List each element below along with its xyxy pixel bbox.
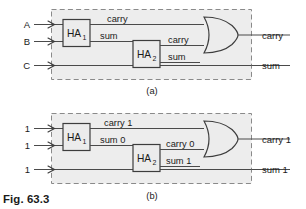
panel-a-half-adder-2-label: HA: [137, 49, 151, 60]
panel-a-output-sum-label: sum: [262, 60, 280, 71]
panel-b-output-carry-label: carry 1: [262, 134, 291, 145]
panel-b: 1 1 1 HA 1 HA 2 carry 1 sum 0 carry 0 su…: [25, 114, 291, 202]
panel-a-half-adder-1-label: HA: [67, 28, 81, 39]
panel-a-caption: (a): [146, 86, 157, 96]
figure-canvas: A B C HA 1 HA 2 carry sum carry sum carr…: [0, 0, 306, 209]
panel-a: A B C HA 1 HA 2 carry sum carry sum carr…: [23, 10, 290, 97]
panel-b-caption: (b): [146, 191, 157, 201]
panel-b-half-adder-2-subscript: 2: [153, 159, 157, 166]
panel-a-half-adder-2-subscript: 2: [153, 55, 157, 62]
panel-b-output-sum-label: sum 1: [262, 164, 288, 175]
panel-a-input-c-label: C: [23, 60, 30, 71]
panel-b-ha1-sum-label: sum 0: [100, 135, 125, 145]
panel-a-ha2-sum-label: sum: [168, 52, 186, 62]
panel-a-input-b-label: B: [24, 36, 30, 47]
panel-b-half-adder-1-subscript: 1: [83, 138, 87, 145]
panel-b-input-a-label: 1: [25, 123, 30, 134]
panel-a-ha1-sum-label: sum: [100, 31, 118, 41]
panel-a-half-adder-1-subscript: 1: [83, 34, 87, 41]
panel-a-ha2-carry-label: carry: [168, 35, 189, 45]
panel-a-ha1-carry-label: carry: [107, 14, 128, 24]
panel-b-ha2-carry-label: carry 0: [166, 139, 194, 149]
figure-root: A B C HA 1 HA 2 carry sum carry sum carr…: [0, 0, 306, 209]
panel-a-output-carry-label: carry: [262, 30, 283, 41]
panel-b-ha1-carry-label: carry 1: [104, 118, 132, 128]
panel-a-input-a-label: A: [24, 19, 31, 30]
panel-b-ha2-sum-label: sum 1: [166, 156, 191, 166]
panel-b-half-adder-2-label: HA: [137, 153, 151, 164]
panel-b-half-adder-1-label: HA: [67, 132, 81, 143]
figure-caption: Fig. 63.3: [3, 193, 49, 205]
panel-b-input-b-label: 1: [25, 140, 30, 151]
panel-b-input-c-label: 1: [25, 164, 30, 175]
